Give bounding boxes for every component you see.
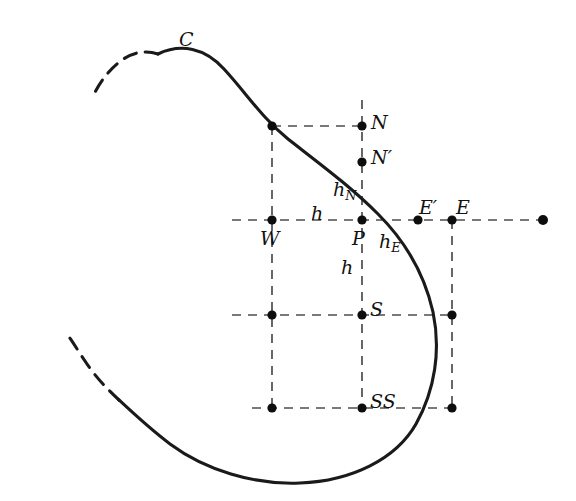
label-node-south: S bbox=[370, 300, 383, 319]
label-node-north: N bbox=[371, 113, 388, 132]
grid-nodes bbox=[267, 121, 548, 412]
label-spacing-h-north: hN bbox=[333, 180, 357, 203]
boundary-curve-dashed-upper bbox=[93, 52, 158, 96]
node-far-east bbox=[538, 215, 548, 225]
label-spacing-h-south: h bbox=[341, 258, 353, 277]
label-subscript: N bbox=[345, 188, 356, 203]
node-north-prime bbox=[357, 157, 366, 166]
label-node-east: E bbox=[456, 198, 470, 217]
label-spacing-h-west: h bbox=[311, 204, 323, 223]
boundary-curve-solid bbox=[119, 48, 436, 483]
label-base: h bbox=[379, 230, 391, 252]
label-node-east-prime: E′ bbox=[419, 198, 437, 217]
node-south-south bbox=[357, 403, 366, 412]
grid-node-sse bbox=[447, 403, 456, 412]
grid-node-se bbox=[447, 310, 456, 319]
diagram-canvas: CNN′hNhWPhEE′EhSSS bbox=[0, 0, 576, 501]
boundary-curve-dashed-lower bbox=[69, 337, 119, 400]
label-curve-boundary-label: C bbox=[179, 30, 194, 49]
label-node-center: P bbox=[352, 229, 365, 248]
label-node-north-prime: N′ bbox=[371, 148, 392, 167]
label-node-west: W bbox=[260, 229, 280, 248]
node-north bbox=[357, 121, 366, 130]
node-west bbox=[267, 215, 276, 224]
label-spacing-h-east: hE bbox=[379, 232, 401, 255]
node-center-p bbox=[357, 215, 366, 224]
grid-node-sw bbox=[267, 310, 276, 319]
label-base: h bbox=[333, 178, 345, 200]
gridlines-horizontal bbox=[232, 126, 543, 408]
node-south bbox=[357, 310, 366, 319]
label-node-south-south: SS bbox=[370, 392, 396, 411]
grid-node-nw bbox=[267, 121, 276, 130]
label-subscript: E bbox=[391, 240, 400, 255]
diagram-svg bbox=[0, 0, 576, 501]
grid-node-ssw bbox=[267, 403, 276, 412]
